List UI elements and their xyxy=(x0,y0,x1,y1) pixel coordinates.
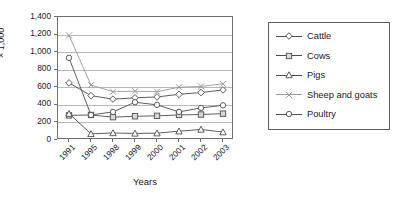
data-point-square xyxy=(154,113,159,118)
y-axis-tick-label: 200 xyxy=(0,117,51,125)
y-axis-tick-mark xyxy=(54,139,57,140)
data-point-circle xyxy=(286,112,291,117)
data-point-triangle xyxy=(286,72,292,78)
x-axis-tick-mark xyxy=(68,139,69,142)
y-axis-tick-label: 0 xyxy=(0,135,51,143)
data-point-circle xyxy=(154,102,159,107)
data-point-circle xyxy=(88,112,93,117)
series-sheep-and-goats xyxy=(66,32,226,94)
data-point-x xyxy=(88,82,94,88)
legend-item-label: Sheep and goats xyxy=(307,90,377,100)
legend-item-pigs[interactable]: Pigs xyxy=(276,68,325,82)
data-point-circle xyxy=(220,103,225,108)
x-axis-tick-mark xyxy=(222,139,223,142)
data-point-diamond xyxy=(286,33,293,40)
data-point-circle xyxy=(198,105,203,110)
data-point-circle xyxy=(176,109,181,114)
data-point-diamond xyxy=(110,96,117,103)
series-layer xyxy=(58,17,234,140)
legend-marker-circle-icon xyxy=(276,108,302,120)
legend-marker-x-icon xyxy=(276,89,302,101)
legend-item-label: Cattle xyxy=(307,31,331,41)
x-axis-tick-mark xyxy=(112,139,113,142)
data-point-diamond xyxy=(176,91,183,98)
line-chart-figure: × 1,000 02004006008001,0001,2001,400 199… xyxy=(0,0,403,201)
data-point-diamond xyxy=(66,80,73,87)
data-point-circle xyxy=(132,100,137,105)
data-point-square xyxy=(220,111,225,116)
y-axis-tick-label: 1,400 xyxy=(0,12,51,20)
y-axis-tick-label: 400 xyxy=(0,99,51,107)
x-axis-tick-mark xyxy=(134,139,135,142)
y-axis-tick-label: 800 xyxy=(0,64,51,72)
legend-item-label: Pigs xyxy=(307,70,325,80)
x-axis-tick-mark xyxy=(200,139,201,142)
x-axis-tick-mark xyxy=(178,139,179,142)
legend-item-cattle[interactable]: Cattle xyxy=(276,29,331,43)
legend-item-label: Poultry xyxy=(307,109,336,119)
series-line xyxy=(69,35,223,91)
x-axis-title: Years xyxy=(0,176,290,187)
data-point-diamond xyxy=(220,87,227,94)
legend-marker-triangle-icon xyxy=(276,69,302,81)
legend-item-cows[interactable]: Cows xyxy=(276,49,330,63)
y-axis-tick-label: 600 xyxy=(0,82,51,90)
x-axis-tick-mark xyxy=(90,139,91,142)
data-point-circle xyxy=(110,109,115,114)
legend-item-label: Cows xyxy=(307,51,330,61)
plot-area xyxy=(57,16,233,139)
data-point-diamond xyxy=(88,92,95,99)
legend-marker-diamond-icon xyxy=(276,30,302,42)
legend: CattleCowsPigsSheep and goatsPoultry xyxy=(268,22,390,130)
y-axis-tick-label: 1,200 xyxy=(0,29,51,37)
data-point-circle xyxy=(66,55,71,60)
y-axis-tick-label: 1,000 xyxy=(0,47,51,55)
legend-item-sheep-and-goats[interactable]: Sheep and goats xyxy=(276,88,377,102)
data-point-square xyxy=(110,114,115,119)
data-point-square xyxy=(198,112,203,117)
data-point-square xyxy=(286,53,291,58)
data-point-square xyxy=(132,114,137,119)
data-point-x xyxy=(286,92,292,98)
data-point-diamond xyxy=(198,89,205,96)
legend-marker-square-icon xyxy=(276,50,302,62)
x-axis-tick-mark xyxy=(156,139,157,142)
data-point-x xyxy=(66,32,72,38)
legend-item-poultry[interactable]: Poultry xyxy=(276,107,336,121)
